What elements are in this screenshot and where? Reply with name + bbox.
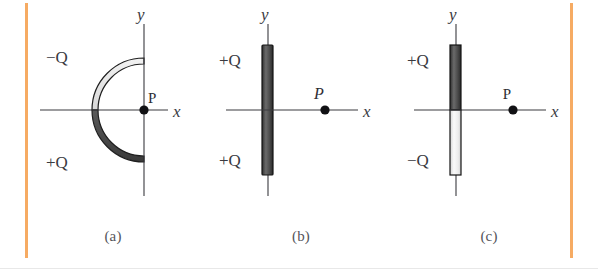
point-p-dot-a <box>139 105 148 114</box>
charge-label-negative-c: −Q <box>407 151 429 170</box>
rod-segment-positive-c <box>450 45 461 110</box>
point-p-label-b: P <box>313 85 324 102</box>
rod-segment-negative-c <box>450 110 461 175</box>
caption-b: (b) <box>206 228 396 245</box>
ring-segment-positive <box>92 110 144 162</box>
panel-a-diagram: x y P −Q +Q <box>18 0 208 225</box>
x-axis-label-b: x <box>362 102 371 121</box>
charge-label-positive-upper-b: +Q <box>219 51 241 70</box>
point-p-dot-b <box>320 105 329 114</box>
panel-b: x y P +Q +Q (b) <box>206 0 396 269</box>
panel-a: x y P −Q +Q (a) <box>18 0 208 269</box>
charge-label-positive-c: +Q <box>407 51 429 70</box>
y-axis-label-b: y <box>259 5 269 24</box>
point-p-dot-c <box>508 105 517 114</box>
charge-label-positive-a: +Q <box>46 153 68 172</box>
ring-segment-negative <box>92 58 144 110</box>
point-p-label-a: P <box>148 90 156 106</box>
physics-figure: x y P −Q +Q (a) <box>0 0 598 269</box>
y-axis-label-a: y <box>135 5 145 24</box>
x-axis-label-a: x <box>172 102 181 121</box>
caption-c: (c) <box>394 228 584 245</box>
y-axis-label-c: y <box>447 5 457 24</box>
charge-label-negative-a: −Q <box>46 48 68 67</box>
caption-a: (a) <box>18 228 208 245</box>
panel-c: x y P +Q −Q (c) <box>394 0 584 269</box>
charge-label-positive-lower-b: +Q <box>219 151 241 170</box>
x-axis-label-c: x <box>550 102 559 121</box>
point-p-label-c: P <box>503 86 511 102</box>
panel-b-diagram: x y P +Q +Q <box>206 0 396 225</box>
panel-c-diagram: x y P +Q −Q <box>394 0 584 225</box>
